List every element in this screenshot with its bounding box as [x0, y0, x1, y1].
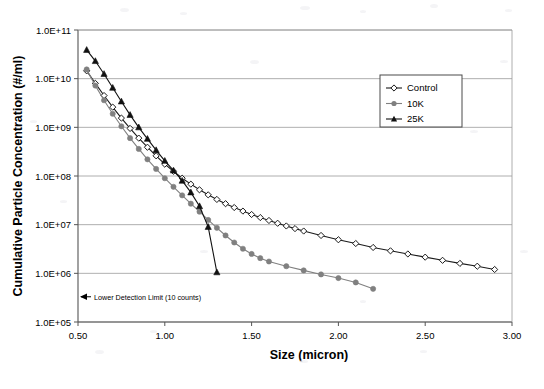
data-point-marker: [110, 111, 115, 116]
data-point-marker: [154, 166, 159, 171]
data-point-marker: [301, 268, 306, 273]
data-point-marker: [249, 251, 254, 256]
series-10k: [84, 67, 376, 292]
data-point-marker: [387, 248, 393, 254]
y-tick-label: 1.0E+08: [35, 171, 71, 182]
data-point-marker: [240, 246, 245, 251]
data-point-marker: [214, 269, 220, 275]
data-point-marker: [283, 223, 289, 229]
data-point-marker: [371, 286, 376, 291]
data-point-marker: [205, 192, 211, 198]
x-axis-title: Size (micron): [270, 348, 349, 362]
data-point-marker: [266, 259, 271, 264]
data-point-marker: [136, 146, 141, 151]
chart-canvas: 1.0E+051.0E+061.0E+071.0E+081.0E+091.0E+…: [0, 0, 544, 389]
data-point-marker: [214, 225, 219, 230]
x-tick-label: 3.00: [503, 330, 522, 341]
data-point-marker: [492, 266, 498, 272]
data-point-marker: [231, 204, 237, 210]
data-point-marker: [119, 124, 124, 129]
x-tick-label: 0.50: [69, 330, 88, 341]
y-tick-label: 1.0E+06: [35, 268, 71, 279]
axes: [74, 30, 512, 326]
data-point-marker: [266, 217, 272, 223]
data-point-marker: [127, 136, 132, 141]
y-tick-labels: 1.0E+051.0E+061.0E+071.0E+081.0E+091.0E+…: [35, 25, 71, 328]
data-point-marker: [84, 47, 90, 53]
data-point-marker: [353, 240, 359, 246]
data-point-marker: [439, 257, 445, 263]
data-point-marker: [284, 264, 289, 269]
data-point-marker: [196, 187, 202, 193]
data-point-marker: [188, 201, 193, 206]
data-point-marker: [301, 228, 307, 234]
data-point-marker: [223, 233, 228, 238]
data-point-marker: [84, 67, 89, 72]
legend-marker-filled-circle: [391, 101, 396, 106]
data-point-marker: [214, 196, 220, 202]
annotation-lower-detection-limit: Lower Detection Limit (10 counts): [80, 293, 201, 302]
data-point-marker: [188, 181, 194, 187]
data-point-marker: [353, 280, 358, 285]
data-point-marker: [275, 220, 281, 226]
particle-concentration-chart: 1.0E+051.0E+061.0E+071.0E+081.0E+091.0E+…: [0, 0, 544, 389]
data-point-marker: [232, 240, 237, 245]
series-line: [87, 50, 217, 272]
data-point-marker: [101, 98, 106, 103]
x-tick-label: 2.50: [416, 330, 435, 341]
data-point-marker: [171, 184, 176, 189]
data-point-marker: [292, 226, 298, 232]
x-tick-labels: 0.501.001.502.002.503.00: [69, 330, 522, 341]
data-point-marker: [370, 244, 376, 250]
data-point-marker: [257, 214, 263, 220]
y-axis-title: Cumulative Particle Concentration (#/ml): [11, 55, 25, 296]
legend-label-25k: 25K: [407, 113, 425, 124]
data-point-marker: [422, 254, 428, 260]
x-tick-label: 1.00: [156, 330, 175, 341]
data-point-marker: [162, 176, 167, 181]
data-point-marker: [335, 237, 341, 243]
data-point-marker: [474, 263, 480, 269]
data-point-marker: [336, 275, 341, 280]
y-tick-label: 1.0E+10: [35, 73, 71, 84]
legend-label-10k: 10K: [407, 98, 425, 109]
data-point-marker: [318, 232, 324, 238]
data-point-marker: [180, 193, 185, 198]
gridlines: [78, 30, 512, 322]
data-point-marker: [457, 260, 463, 266]
annotation-label: Lower Detection Limit (10 counts): [94, 293, 201, 302]
y-tick-label: 1.0E+11: [36, 25, 71, 36]
data-point-marker: [258, 256, 263, 261]
y-tick-label: 1.0E+05: [35, 317, 71, 328]
y-tick-label: 1.0E+09: [35, 122, 71, 133]
left-arrow-icon: [80, 294, 87, 300]
data-point-marker: [240, 208, 246, 214]
x-tick-label: 2.00: [329, 330, 348, 341]
series-25k: [84, 47, 220, 275]
legend-label-control: Control: [407, 82, 438, 93]
x-tick-label: 1.50: [242, 330, 261, 341]
series-line: [87, 69, 373, 288]
y-tick-label: 1.0E+07: [35, 219, 71, 230]
data-point-marker: [145, 157, 150, 162]
data-point-marker: [405, 251, 411, 257]
data-point-marker: [222, 201, 228, 207]
data-point-marker: [93, 83, 98, 88]
data-point-marker: [318, 272, 323, 277]
legend: Control10K25K: [380, 75, 462, 127]
data-point-marker: [249, 211, 255, 217]
